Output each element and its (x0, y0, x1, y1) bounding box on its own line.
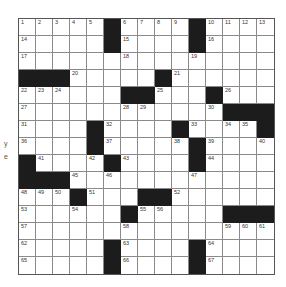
grid-cell[interactable] (189, 70, 206, 87)
grid-cell[interactable] (240, 172, 257, 189)
grid-cell[interactable]: 30 (206, 104, 223, 121)
grid-cell[interactable] (87, 257, 104, 274)
grid-cell[interactable] (53, 257, 70, 274)
grid-cell[interactable] (53, 223, 70, 240)
grid-cell[interactable] (87, 53, 104, 70)
grid-cell[interactable]: 25 (155, 87, 172, 104)
grid-cell[interactable] (53, 36, 70, 53)
grid-cell[interactable] (240, 155, 257, 172)
grid-cell[interactable] (172, 257, 189, 274)
grid-cell[interactable] (155, 53, 172, 70)
grid-cell[interactable] (53, 206, 70, 223)
grid-cell[interactable] (36, 257, 53, 274)
grid-cell[interactable] (223, 138, 240, 155)
grid-cell[interactable]: 26 (223, 87, 240, 104)
grid-cell[interactable] (70, 36, 87, 53)
grid-cell[interactable] (53, 53, 70, 70)
grid-cell[interactable] (104, 189, 121, 206)
grid-cell[interactable] (70, 155, 87, 172)
grid-cell[interactable] (70, 138, 87, 155)
grid-cell[interactable] (87, 70, 104, 87)
grid-cell[interactable]: 44 (206, 155, 223, 172)
grid-cell[interactable] (104, 206, 121, 223)
grid-cell[interactable] (53, 240, 70, 257)
grid-cell[interactable] (121, 172, 138, 189)
grid-cell[interactable] (138, 70, 155, 87)
grid-cell[interactable]: 9 (172, 19, 189, 36)
grid-cell[interactable] (172, 53, 189, 70)
grid-cell[interactable] (53, 121, 70, 138)
grid-cell[interactable] (87, 206, 104, 223)
grid-cell[interactable]: 60 (240, 223, 257, 240)
grid-cell[interactable] (104, 104, 121, 121)
grid-cell[interactable]: 18 (121, 53, 138, 70)
grid-cell[interactable] (138, 53, 155, 70)
grid-cell[interactable] (138, 172, 155, 189)
grid-cell[interactable] (257, 257, 274, 274)
grid-cell[interactable] (240, 138, 257, 155)
grid-cell[interactable]: 41 (36, 155, 53, 172)
grid-cell[interactable] (138, 36, 155, 53)
grid-cell[interactable]: 54 (70, 206, 87, 223)
grid-cell[interactable]: 45 (70, 172, 87, 189)
grid-cell[interactable] (36, 206, 53, 223)
grid-cell[interactable]: 51 (87, 189, 104, 206)
grid-cell[interactable] (172, 87, 189, 104)
grid-cell[interactable]: 64 (206, 240, 223, 257)
grid-cell[interactable]: 63 (121, 240, 138, 257)
grid-cell[interactable] (36, 138, 53, 155)
grid-cell[interactable] (155, 121, 172, 138)
grid-cell[interactable]: 29 (138, 104, 155, 121)
grid-cell[interactable]: 49 (36, 189, 53, 206)
grid-cell[interactable] (257, 240, 274, 257)
grid-cell[interactable] (240, 87, 257, 104)
grid-cell[interactable] (257, 189, 274, 206)
grid-cell[interactable]: 4 (70, 19, 87, 36)
grid-cell[interactable]: 10 (206, 19, 223, 36)
grid-cell[interactable] (70, 121, 87, 138)
grid-cell[interactable] (36, 240, 53, 257)
grid-cell[interactable]: 36 (19, 138, 36, 155)
grid-cell[interactable] (206, 53, 223, 70)
grid-cell[interactable]: 11 (223, 19, 240, 36)
grid-cell[interactable]: 53 (19, 206, 36, 223)
grid-cell[interactable]: 27 (19, 104, 36, 121)
grid-cell[interactable] (189, 87, 206, 104)
grid-cell[interactable] (206, 172, 223, 189)
grid-cell[interactable]: 13 (257, 19, 274, 36)
grid-cell[interactable] (240, 240, 257, 257)
grid-cell[interactable] (172, 172, 189, 189)
grid-cell[interactable]: 67 (206, 257, 223, 274)
grid-cell[interactable] (206, 206, 223, 223)
grid-cell[interactable] (36, 121, 53, 138)
grid-cell[interactable] (155, 138, 172, 155)
grid-cell[interactable]: 48 (19, 189, 36, 206)
grid-cell[interactable] (172, 36, 189, 53)
grid-cell[interactable] (240, 70, 257, 87)
grid-cell[interactable] (138, 240, 155, 257)
grid-cell[interactable] (257, 70, 274, 87)
grid-cell[interactable]: 35 (240, 121, 257, 138)
grid-cell[interactable] (240, 257, 257, 274)
grid-cell[interactable] (155, 223, 172, 240)
grid-cell[interactable] (223, 257, 240, 274)
grid-cell[interactable]: 59 (223, 223, 240, 240)
grid-cell[interactable]: 2 (36, 19, 53, 36)
grid-cell[interactable] (223, 36, 240, 53)
grid-cell[interactable] (172, 155, 189, 172)
grid-cell[interactable]: 52 (172, 189, 189, 206)
grid-cell[interactable]: 6 (121, 19, 138, 36)
grid-cell[interactable] (70, 87, 87, 104)
grid-cell[interactable]: 32 (104, 121, 121, 138)
grid-cell[interactable] (36, 223, 53, 240)
grid-cell[interactable] (257, 53, 274, 70)
grid-cell[interactable] (104, 87, 121, 104)
grid-cell[interactable]: 56 (155, 206, 172, 223)
grid-cell[interactable]: 8 (155, 19, 172, 36)
grid-cell[interactable] (155, 36, 172, 53)
grid-cell[interactable]: 58 (121, 223, 138, 240)
grid-cell[interactable] (206, 189, 223, 206)
grid-cell[interactable]: 21 (172, 70, 189, 87)
grid-cell[interactable]: 42 (87, 155, 104, 172)
grid-cell[interactable] (189, 223, 206, 240)
